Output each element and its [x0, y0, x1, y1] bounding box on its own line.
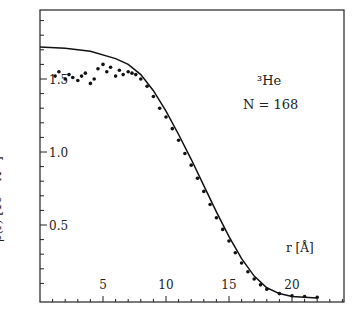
particle-count-label: N = 168 [243, 97, 298, 112]
svg-text:5: 5 [99, 278, 107, 292]
svg-text:15: 15 [221, 278, 236, 292]
svg-text:1.0: 1.0 [49, 146, 68, 160]
chart-canvas: 5101520 0.51.01.5 [0, 0, 355, 317]
plot-frame [40, 10, 344, 302]
x-axis-label: r [Å] [286, 241, 314, 255]
svg-text:0.5: 0.5 [49, 219, 68, 233]
y-axis-label: ρ(r) [10⁻² Å⁻³] [0, 156, 4, 241]
svg-text:20: 20 [284, 278, 299, 292]
y-axis-ticks: 0.51.01.5 [40, 21, 68, 284]
isotope-label: ³He [257, 73, 281, 88]
x-axis-ticks: 5101520 [53, 278, 343, 302]
svg-text:10: 10 [158, 278, 173, 292]
